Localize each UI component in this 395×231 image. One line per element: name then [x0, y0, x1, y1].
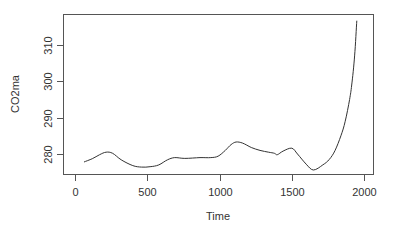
- y-axis: 280290300310: [42, 36, 64, 163]
- plot-box: [64, 15, 374, 175]
- y-axis-label: CO2ma: [9, 74, 21, 113]
- co2ma-line-chart: 0500100015002000 280290300310 Time CO2ma: [0, 0, 395, 231]
- x-tick-label: 0: [72, 186, 78, 198]
- x-axis-label: Time: [206, 210, 230, 222]
- x-tick-label: 2000: [352, 186, 376, 198]
- y-tick-label: 300: [42, 72, 54, 90]
- y-tick-label: 290: [42, 109, 54, 127]
- y-tick-label: 310: [42, 36, 54, 54]
- co2ma-series-line: [84, 21, 357, 170]
- x-tick-label: 500: [138, 186, 156, 198]
- x-axis: 0500100015002000: [72, 175, 376, 198]
- y-tick-label: 280: [42, 145, 54, 163]
- x-tick-label: 1000: [208, 186, 232, 198]
- x-tick-label: 1500: [280, 186, 304, 198]
